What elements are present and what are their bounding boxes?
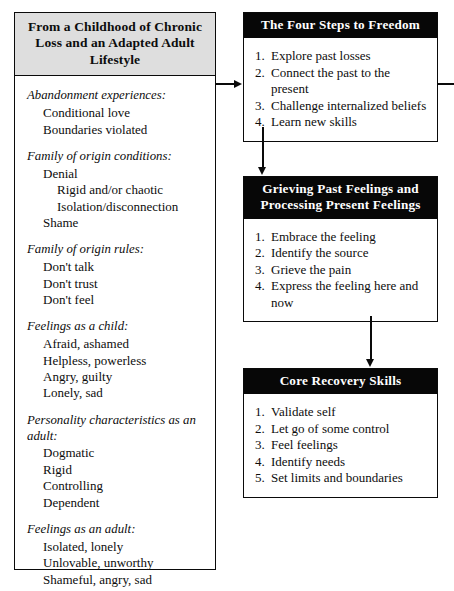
- left-group-title: Personality characteristics as an adult:: [27, 413, 209, 445]
- list-item: 4.Identify needs: [255, 454, 429, 471]
- list-item-text: Explore past losses: [271, 48, 371, 63]
- list-item-number: 1.: [255, 229, 271, 246]
- connector-steps-to-grieving: [262, 127, 264, 168]
- list-item: 2.Let go of some control: [255, 421, 429, 438]
- list-item-number: 3.: [255, 437, 271, 454]
- list-item-text: Express the feeling here and now: [271, 278, 418, 310]
- list-item: Rigid and/or chaotic: [27, 182, 209, 198]
- grieving-processing-box: Grieving Past Feelings and Processing Pr…: [243, 176, 438, 322]
- list-item-text: Let go of some control: [271, 421, 389, 436]
- grieving-header: Grieving Past Feelings and Processing Pr…: [244, 177, 437, 219]
- left-group-list: DenialRigid and/or chaoticIsolation/disc…: [27, 166, 209, 232]
- list-item: 4.Learn new skills: [255, 114, 429, 131]
- list-item-text: Challenge internalized beliefs: [271, 98, 426, 113]
- list-item: Dogmatic: [27, 445, 209, 461]
- list-item-text: Grieve the pain: [271, 262, 351, 277]
- list-item: Shameful, angry, sad: [27, 572, 209, 588]
- arrow-into-grieving-icon: [258, 167, 266, 175]
- grieving-list: 1.Embrace the feeling2.Identify the sour…: [255, 229, 429, 312]
- list-item: Controlling: [27, 478, 209, 494]
- left-group-title: Abandonment experiences:: [27, 88, 209, 104]
- arrow-into-core-icon: [366, 359, 374, 367]
- core-recovery-skills-box: Core Recovery Skills 1.Validate self2.Le…: [243, 368, 438, 498]
- left-panel-body: Abandonment experiences:Conditional love…: [15, 76, 215, 591]
- list-item: 2.Identify the source: [255, 245, 429, 262]
- four-steps-list: 1.Explore past losses2.Connect the past …: [255, 48, 429, 131]
- grieving-body: 1.Embrace the feeling2.Identify the sour…: [244, 219, 437, 322]
- list-item: Conditional love: [27, 105, 209, 121]
- list-item-number: 4.: [255, 278, 271, 295]
- childhood-loss-panel: From a Childhood of Chronic Loss and an …: [14, 12, 216, 570]
- list-item: Isolation/disconnection: [27, 199, 209, 215]
- four-steps-header: The Four Steps to Freedom: [244, 13, 437, 38]
- list-item: 2.Connect the past to the present: [255, 65, 429, 98]
- left-group-title: Family of origin rules:: [27, 242, 209, 258]
- four-steps-to-freedom-box: The Four Steps to Freedom 1.Explore past…: [243, 12, 438, 142]
- left-group-list: Don't talkDon't trustDon't feel: [27, 259, 209, 308]
- list-item: 1.Explore past losses: [255, 48, 429, 65]
- core-recovery-header: Core Recovery Skills: [244, 369, 437, 394]
- connector-left-to-steps: [216, 83, 235, 85]
- list-item-number: 5.: [255, 470, 271, 487]
- left-group-list: Isolated, lonelyUnlovable, unworthyShame…: [27, 539, 209, 588]
- list-item: 1.Validate self: [255, 404, 429, 421]
- list-item: Afraid, ashamed: [27, 336, 209, 352]
- left-group-title: Feelings as an adult:: [27, 522, 209, 538]
- left-group: Personality characteristics as an adult:…: [27, 413, 209, 511]
- list-item-text: Embrace the feeling: [271, 229, 376, 244]
- list-item: Boundaries violated: [27, 122, 209, 138]
- list-item: Lonely, sad: [27, 385, 209, 401]
- list-item-text: Validate self: [271, 404, 336, 419]
- list-item-number: 2.: [255, 65, 271, 82]
- list-item-number: 4.: [255, 454, 271, 471]
- left-group: Family of origin rules:Don't talkDon't t…: [27, 242, 209, 308]
- left-panel-header: From a Childhood of Chronic Loss and an …: [15, 13, 215, 76]
- list-item: Rigid: [27, 462, 209, 478]
- list-item: Don't talk: [27, 259, 209, 275]
- core-recovery-body: 1.Validate self2.Let go of some control3…: [244, 394, 437, 497]
- four-steps-body: 1.Explore past losses2.Connect the past …: [244, 38, 437, 141]
- connector-grieving-to-core: [370, 316, 372, 360]
- list-item: Don't trust: [27, 276, 209, 292]
- left-group-list: DogmaticRigidControllingDependent: [27, 445, 209, 511]
- list-item: Angry, guilty: [27, 369, 209, 385]
- list-item-text: Identify the source: [271, 245, 368, 260]
- list-item-number: 1.: [255, 404, 271, 421]
- list-item: Unlovable, unworthy: [27, 555, 209, 571]
- list-item: 3.Grieve the pain: [255, 262, 429, 279]
- list-item: 4.Express the feeling here and now: [255, 278, 429, 311]
- list-item-text: Set limits and boundaries: [271, 470, 403, 485]
- left-group-title: Family of origin conditions:: [27, 149, 209, 165]
- list-item: 5.Set limits and boundaries: [255, 470, 429, 487]
- left-group: Abandonment experiences:Conditional love…: [27, 88, 209, 138]
- list-item: Shame: [27, 215, 209, 231]
- list-item-number: 1.: [255, 48, 271, 65]
- list-item-text: Connect the past to the present: [271, 65, 390, 97]
- list-item: Denial: [27, 166, 209, 182]
- left-group-title: Feelings as a child:: [27, 319, 209, 335]
- left-group: Family of origin conditions:DenialRigid …: [27, 149, 209, 231]
- left-group: Feelings as a child:Afraid, ashamedHelpl…: [27, 319, 209, 401]
- core-recovery-list: 1.Validate self2.Let go of some control3…: [255, 404, 429, 487]
- list-item: 3.Feel feelings: [255, 437, 429, 454]
- list-item: Helpless, powerless: [27, 353, 209, 369]
- list-item: 1.Embrace the feeling: [255, 229, 429, 246]
- list-item-number: 2.: [255, 245, 271, 262]
- connector-steps-to-right-edge: [438, 83, 454, 85]
- list-item: 3.Challenge internalized beliefs: [255, 98, 429, 115]
- list-item: Don't feel: [27, 292, 209, 308]
- list-item-number: 3.: [255, 262, 271, 279]
- list-item-number: 3.: [255, 98, 271, 115]
- left-group-list: Afraid, ashamedHelpless, powerlessAngry,…: [27, 336, 209, 402]
- list-item: Isolated, lonely: [27, 539, 209, 555]
- list-item-text: Identify needs: [271, 454, 345, 469]
- list-item-text: Learn new skills: [271, 114, 357, 129]
- left-group-list: Conditional loveBoundaries violated: [27, 105, 209, 138]
- list-item: Dependent: [27, 495, 209, 511]
- list-item-number: 2.: [255, 421, 271, 438]
- list-item-text: Feel feelings: [271, 437, 338, 452]
- arrow-into-steps-icon: [234, 80, 242, 88]
- left-group: Feelings as an adult:Isolated, lonelyUnl…: [27, 522, 209, 588]
